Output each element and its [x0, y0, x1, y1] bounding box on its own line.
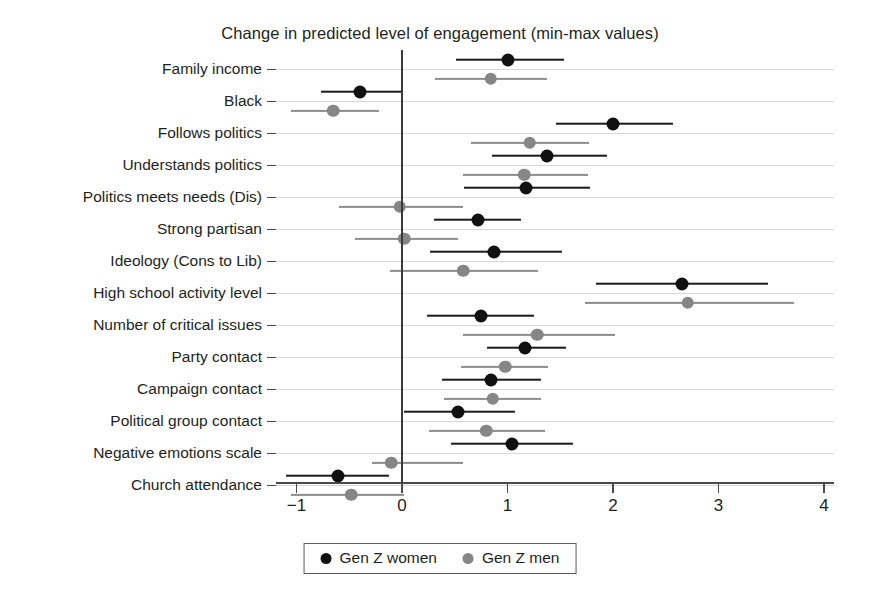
gridline	[276, 389, 834, 390]
gridline	[276, 293, 834, 294]
y-axis-label: Follows politics	[158, 124, 262, 142]
y-axis-tick	[267, 101, 276, 102]
chart-title: Change in predicted level of engagement …	[0, 24, 880, 43]
plot-area: Family incomeBlackFollows politicsUnders…	[0, 50, 880, 490]
y-axis-label: Family income	[162, 60, 262, 78]
y-axis-label: Political group contact	[110, 412, 262, 430]
y-axis-tick	[267, 357, 276, 358]
y-axis-tick	[267, 389, 276, 390]
data-point-women[interactable]	[607, 117, 620, 130]
data-point-men[interactable]	[398, 232, 411, 245]
y-axis-tick	[267, 165, 276, 166]
x-axis-line	[276, 482, 834, 484]
gridline	[276, 197, 834, 198]
data-point-women[interactable]	[475, 309, 488, 322]
data-point-men[interactable]	[385, 456, 398, 469]
legend-item-men: Gen Z men	[463, 549, 560, 567]
gridline	[276, 357, 834, 358]
data-point-men[interactable]	[523, 136, 536, 149]
gridline	[276, 229, 834, 230]
y-axis-tick	[267, 197, 276, 198]
x-axis-label: 4	[819, 496, 828, 516]
x-axis-label: 0	[397, 496, 406, 516]
y-axis-label: Understands politics	[122, 156, 262, 174]
legend-marker-men-icon	[463, 553, 474, 564]
gridline	[276, 165, 834, 166]
gridline	[276, 421, 834, 422]
x-axis-tick	[718, 484, 719, 493]
data-point-women[interactable]	[471, 213, 484, 226]
gridline	[276, 101, 834, 102]
gridline	[276, 453, 834, 454]
y-axis-label: Campaign contact	[137, 380, 262, 398]
gridline	[276, 69, 834, 70]
gridline	[276, 325, 834, 326]
data-point-men[interactable]	[484, 72, 497, 85]
gridline	[276, 133, 834, 134]
data-point-men[interactable]	[327, 104, 340, 117]
data-point-men[interactable]	[457, 264, 470, 277]
y-axis-tick	[267, 293, 276, 294]
y-axis-label: Ideology (Cons to Lib)	[110, 252, 262, 270]
x-axis-tick	[401, 484, 402, 493]
y-axis-tick	[267, 421, 276, 422]
y-axis-label: Black	[224, 92, 262, 110]
x-axis-tick	[612, 484, 613, 493]
legend-item-women: Gen Z women	[321, 549, 437, 567]
y-axis-label: Church attendance	[131, 476, 262, 494]
y-axis-label: Negative emotions scale	[93, 444, 262, 462]
data-point-women[interactable]	[451, 405, 464, 418]
data-point-men[interactable]	[345, 488, 358, 501]
y-axis-label: Strong partisan	[157, 220, 262, 238]
y-axis-tick	[267, 485, 276, 486]
data-point-women[interactable]	[484, 373, 497, 386]
y-axis-tick	[267, 325, 276, 326]
legend-label-men: Gen Z men	[482, 549, 560, 567]
x-axis-tick	[823, 484, 824, 493]
data-point-men[interactable]	[486, 392, 499, 405]
gridline	[276, 485, 834, 486]
y-axis-tick	[267, 453, 276, 454]
data-point-women[interactable]	[505, 437, 518, 450]
x-axis-label: 1	[503, 496, 512, 516]
y-axis-tick	[267, 69, 276, 70]
legend-marker-women-icon	[321, 553, 332, 564]
y-axis-tick	[267, 229, 276, 230]
data-point-women[interactable]	[519, 341, 532, 354]
legend-label-women: Gen Z women	[340, 549, 437, 567]
y-axis-tick	[267, 133, 276, 134]
y-axis-tick	[267, 261, 276, 262]
zero-reference-line	[401, 50, 403, 482]
x-axis-label: −1	[287, 496, 306, 516]
x-axis-tick	[296, 484, 297, 493]
data-point-men[interactable]	[499, 360, 512, 373]
y-axis-label: Party contact	[172, 348, 262, 366]
data-point-women[interactable]	[487, 245, 500, 258]
x-axis-label: 3	[714, 496, 723, 516]
x-axis-label: 2	[608, 496, 617, 516]
data-point-women[interactable]	[501, 53, 514, 66]
data-point-men[interactable]	[531, 328, 544, 341]
data-point-women[interactable]	[540, 149, 553, 162]
data-point-men[interactable]	[480, 424, 493, 437]
data-point-men[interactable]	[518, 168, 531, 181]
chart-root: Change in predicted level of engagement …	[0, 0, 880, 601]
data-point-women[interactable]	[331, 469, 344, 482]
x-axis-tick	[507, 484, 508, 493]
data-point-women[interactable]	[675, 277, 688, 290]
y-axis-label: Number of critical issues	[93, 316, 262, 334]
y-axis-label: Politics meets needs (Dis)	[83, 188, 262, 206]
data-point-women[interactable]	[520, 181, 533, 194]
data-point-women[interactable]	[353, 85, 366, 98]
chart-legend: Gen Z women Gen Z men	[304, 543, 577, 574]
data-point-men[interactable]	[682, 296, 695, 309]
y-axis-label: High school activity level	[93, 284, 262, 302]
gridline	[276, 261, 834, 262]
data-point-men[interactable]	[394, 200, 407, 213]
